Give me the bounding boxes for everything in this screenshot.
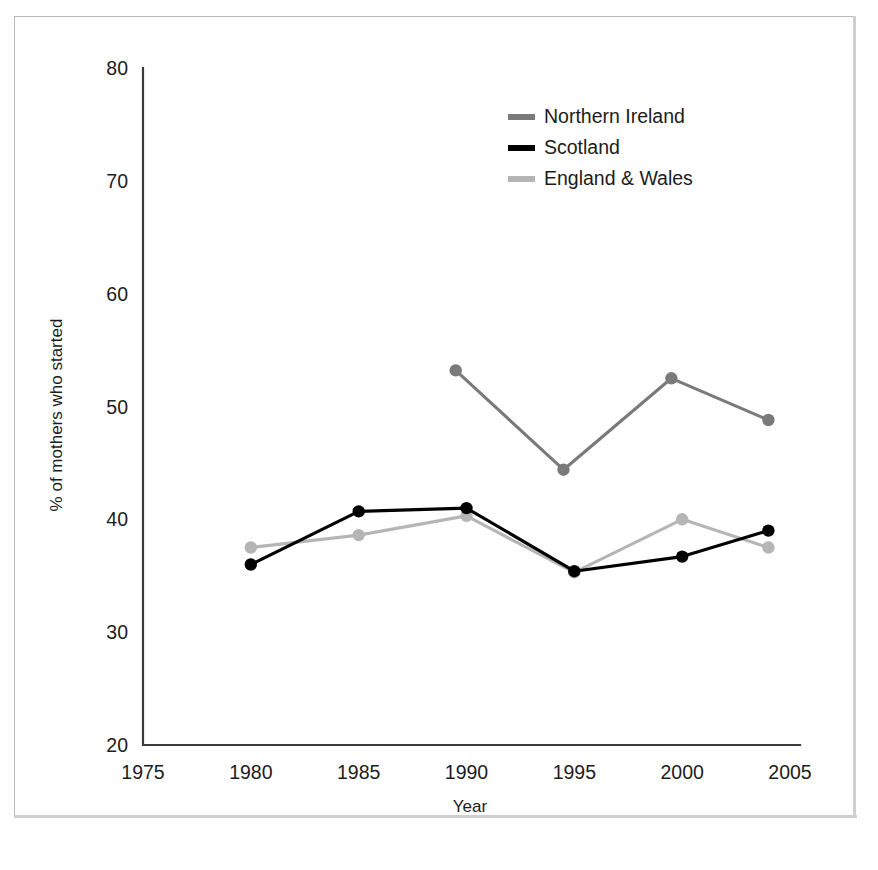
data-point	[762, 414, 774, 426]
series-northern-ireland	[450, 364, 775, 476]
series-line	[456, 370, 769, 469]
data-point	[450, 364, 462, 376]
y-tick-label-70: 70	[106, 170, 128, 192]
x-tick-label-1985: 1985	[337, 761, 381, 783]
data-point	[460, 502, 472, 514]
y-tick-label-20: 20	[106, 734, 128, 756]
series-england-wales	[245, 510, 775, 579]
data-point	[568, 565, 580, 577]
chart-legend: Northern IrelandScotlandEngland & Wales	[508, 105, 693, 189]
data-point	[245, 558, 257, 570]
x-axis-title: Year	[453, 797, 488, 816]
series-line	[251, 516, 769, 573]
axis-lines	[143, 68, 800, 745]
legend-item-scotland: Scotland	[508, 136, 620, 158]
legend-label: England & Wales	[544, 167, 693, 189]
data-point	[762, 524, 774, 536]
x-tick-label-2000: 2000	[660, 761, 704, 783]
data-point	[665, 372, 677, 384]
legend-item-england-wales: England & Wales	[508, 167, 693, 189]
data-point	[676, 550, 688, 562]
y-tick-label-60: 60	[106, 283, 128, 305]
x-tick-label-1995: 1995	[553, 761, 597, 783]
y-axis-tick-labels: 80706050403020	[106, 57, 128, 756]
line-chart: 80706050403020 1975198019851990199520002…	[0, 0, 878, 870]
data-point	[245, 541, 257, 553]
data-point	[353, 529, 365, 541]
data-point	[557, 464, 569, 476]
legend-item-northern-ireland: Northern Ireland	[508, 105, 685, 127]
data-point	[762, 541, 774, 553]
x-axis-tick-labels: 1975198019851990199520002005	[121, 761, 812, 783]
y-tick-label-50: 50	[106, 396, 128, 418]
x-tick-label-2005: 2005	[768, 761, 812, 783]
x-tick-label-1980: 1980	[229, 761, 273, 783]
y-tick-label-80: 80	[106, 57, 128, 79]
chart-series	[245, 364, 775, 578]
chart-axes	[143, 68, 800, 745]
data-point	[353, 505, 365, 517]
x-tick-label-1975: 1975	[121, 761, 165, 783]
y-tick-label-30: 30	[106, 621, 128, 643]
legend-label: Scotland	[544, 136, 620, 158]
y-axis-title: % of mothers who started	[47, 319, 66, 512]
x-tick-label-1990: 1990	[445, 761, 489, 783]
y-tick-label-40: 40	[106, 508, 128, 530]
legend-label: Northern Ireland	[544, 105, 685, 127]
data-point	[676, 513, 688, 525]
